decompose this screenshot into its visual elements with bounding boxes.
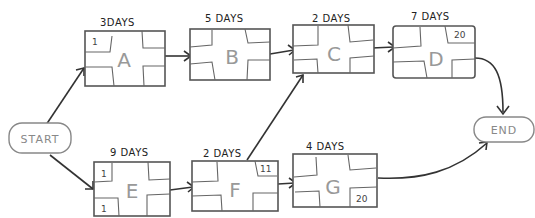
task-a: 3DAYS 1 A <box>85 17 165 86</box>
task-b: 5 DAYS B <box>190 13 270 80</box>
task-f: 2 DAYS 11 F <box>192 148 278 211</box>
task-cell-top-right: 11 <box>260 164 271 174</box>
end-label: END <box>491 124 518 137</box>
task-cell-bottom-right: 20 <box>356 194 368 204</box>
task-label: C <box>327 42 341 66</box>
task-duration: 3DAYS <box>100 17 135 28</box>
task-label: A <box>117 48 131 72</box>
task-label: F <box>229 178 241 202</box>
task-cell-top-left: 1 <box>92 37 98 47</box>
task-duration: 4 DAYS <box>306 141 345 152</box>
task-label: G <box>325 175 341 199</box>
task-duration: 7 DAYS <box>411 11 450 22</box>
task-label: D <box>428 47 443 71</box>
edge-f-c <box>247 75 303 160</box>
task-duration: 9 DAYS <box>110 147 149 158</box>
task-g: 4 DAYS 20 G <box>293 141 377 207</box>
task-duration: 2 DAYS <box>203 148 242 159</box>
edge-c-d <box>372 47 394 48</box>
task-cell-top-left: 1 <box>101 169 107 179</box>
edge-start-a <box>44 68 84 128</box>
edge-e-f <box>170 187 193 190</box>
task-c: 2 DAYS C <box>293 13 374 73</box>
edge-start-e <box>50 155 93 189</box>
task-e: 9 DAYS 1 1 E <box>94 147 170 216</box>
start-node: START <box>9 123 71 153</box>
task-label: E <box>126 179 139 203</box>
edge-d-end <box>475 58 503 112</box>
task-d: 7 DAYS 20 D <box>393 11 475 78</box>
task-duration: 5 DAYS <box>205 13 244 24</box>
network-diagram: START END 3DAYS 1 A 5 DAYS B 2 DAYS C <box>0 0 535 218</box>
task-duration: 2 DAYS <box>312 13 351 24</box>
task-label: B <box>225 45 239 69</box>
task-cell-bottom-left: 1 <box>101 204 107 214</box>
edge-g-end <box>378 143 487 178</box>
task-cell-top-right: 20 <box>454 30 466 40</box>
end-node: END <box>474 117 534 142</box>
start-label: START <box>21 133 60 146</box>
